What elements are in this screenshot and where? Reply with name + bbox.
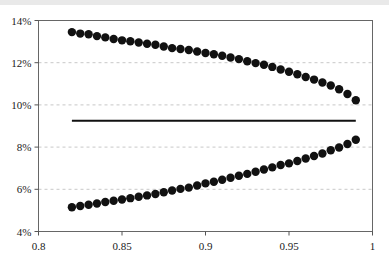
data-point	[302, 73, 310, 81]
data-point	[176, 45, 184, 53]
y-tick-label: 6%	[17, 183, 32, 195]
data-point	[310, 152, 318, 160]
data-point	[235, 172, 243, 180]
data-point	[76, 29, 84, 37]
data-point	[243, 170, 251, 178]
data-point	[160, 188, 168, 196]
data-point	[135, 192, 143, 200]
chart-plot: 4%6%8%10%12%14% 0.80.850.90.951	[0, 0, 389, 266]
data-point	[210, 50, 218, 58]
data-point	[293, 157, 301, 165]
data-point	[76, 202, 84, 210]
data-point	[201, 49, 209, 57]
data-point	[318, 78, 326, 86]
data-point	[276, 161, 284, 169]
data-point	[251, 168, 259, 176]
data-point	[335, 143, 343, 151]
data-point	[68, 28, 76, 36]
data-point	[160, 42, 168, 50]
data-point	[151, 190, 159, 198]
data-point	[218, 52, 226, 60]
data-point	[118, 36, 126, 44]
data-point	[235, 55, 243, 63]
data-point	[260, 61, 268, 69]
data-point	[109, 196, 117, 204]
data-point	[285, 159, 293, 167]
y-tick-label: 14%	[11, 15, 31, 27]
data-point	[176, 185, 184, 193]
data-point	[285, 68, 293, 76]
x-axis-ticks	[39, 232, 373, 236]
y-tick-label: 8%	[17, 141, 32, 153]
data-point	[327, 81, 335, 89]
data-point	[193, 181, 201, 189]
y-axis-ticks	[35, 21, 39, 232]
data-point	[168, 44, 176, 52]
upper-bound-series	[68, 28, 360, 105]
data-point	[210, 178, 218, 186]
data-point	[168, 186, 176, 194]
data-point	[101, 33, 109, 41]
data-point	[218, 176, 226, 184]
data-point	[193, 47, 201, 55]
data-point	[143, 191, 151, 199]
data-point	[352, 136, 360, 144]
data-point	[302, 154, 310, 162]
data-point	[126, 37, 134, 45]
data-point	[268, 63, 276, 71]
data-point	[243, 57, 251, 65]
data-point	[226, 173, 234, 181]
y-tick-label: 10%	[11, 99, 31, 111]
x-tick-label: 0.9	[199, 240, 213, 252]
data-point	[151, 41, 159, 49]
data-point	[343, 140, 351, 148]
x-tick-label: 0.85	[112, 240, 132, 252]
data-point	[343, 90, 351, 98]
data-point	[260, 165, 268, 173]
data-point	[310, 75, 318, 83]
data-point	[268, 163, 276, 171]
data-point	[293, 70, 301, 78]
data-point	[276, 65, 284, 73]
data-point	[93, 199, 101, 207]
data-point	[185, 46, 193, 54]
y-tick-label: 4%	[17, 226, 32, 238]
data-point	[109, 35, 117, 43]
y-axis-labels: 4%6%8%10%12%14%	[11, 15, 31, 238]
y-tick-label: 12%	[11, 57, 31, 69]
x-tick-label: 0.95	[279, 240, 299, 252]
data-point	[84, 201, 92, 209]
data-point	[251, 59, 259, 67]
data-point	[135, 38, 143, 46]
data-point	[327, 146, 335, 154]
data-point	[84, 30, 92, 38]
chart-container: 4%6%8%10%12%14% 0.80.850.90.951	[0, 0, 389, 266]
data-point	[143, 40, 151, 48]
x-axis-labels: 0.80.850.90.951	[32, 240, 376, 252]
x-tick-label: 0.8	[32, 240, 46, 252]
data-point	[93, 32, 101, 40]
data-point	[185, 183, 193, 191]
data-point	[201, 179, 209, 187]
data-point	[118, 195, 126, 203]
data-point	[101, 198, 109, 206]
data-point	[226, 53, 234, 61]
data-point	[68, 203, 76, 211]
data-point	[318, 149, 326, 157]
data-point	[335, 85, 343, 93]
x-tick-label: 1	[370, 240, 376, 252]
data-point	[126, 194, 134, 202]
data-point	[352, 96, 360, 104]
